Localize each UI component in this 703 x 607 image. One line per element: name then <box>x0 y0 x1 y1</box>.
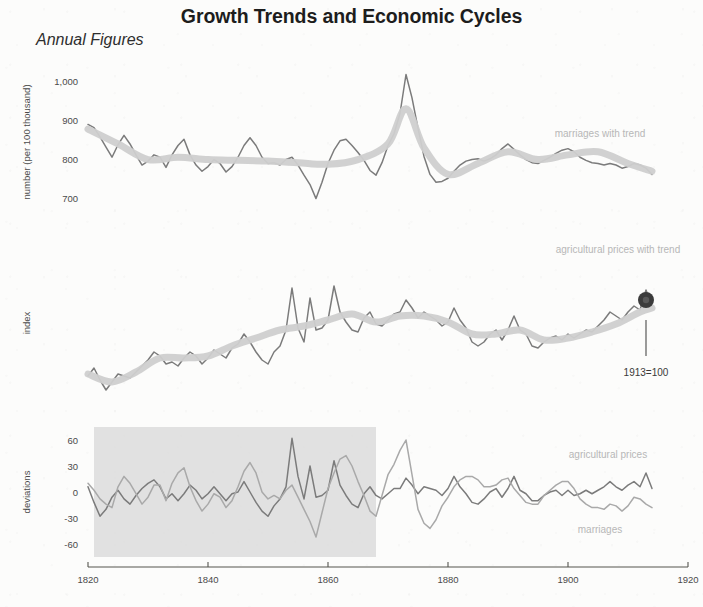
trend-band-marriages-trend <box>88 109 652 175</box>
x-tick-label: 1840 <box>197 574 218 585</box>
y-tick-label: 900 <box>62 115 78 126</box>
y-tick-label: 0 <box>73 487 78 498</box>
y-axis-title: number (per 100 thousand) <box>21 84 32 199</box>
x-tick-label: 1820 <box>77 574 98 585</box>
y-axis-title: deviations <box>21 470 32 513</box>
x-tick-label: 1900 <box>557 574 578 585</box>
y-tick-label: 30 <box>67 461 78 472</box>
y-tick-label: -60 <box>64 539 78 550</box>
y-tick-label: 700 <box>62 193 78 204</box>
x-tick-label: 1880 <box>437 574 458 585</box>
y-tick-label: 800 <box>62 154 78 165</box>
growth-trends-chart: 7008009001,000number (per 100 thousand)i… <box>0 0 703 607</box>
series-label-agri-prices-with-trend: agricultural prices with trend <box>556 244 681 255</box>
series-label-agricultural-prices: agricultural prices <box>569 449 647 460</box>
trend-band-agricultural-prices-trend <box>88 308 652 382</box>
y-tick-label: 1,000 <box>54 76 78 87</box>
y-tick-label: 60 <box>67 435 78 446</box>
series-label-marriages: marriages <box>578 524 622 535</box>
base-year-annotation: 1913=100 <box>624 367 669 378</box>
y-tick-label: -30 <box>64 513 78 524</box>
x-tick-label: 1920 <box>677 574 698 585</box>
chart-page: Growth Trends and Economic Cycles Annual… <box>0 0 703 607</box>
series-label-marriages-with-trend: marriages with trend <box>555 128 646 139</box>
base-year-marker-inner <box>643 297 649 303</box>
x-tick-label: 1860 <box>317 574 338 585</box>
y-axis-title: index <box>21 311 32 334</box>
